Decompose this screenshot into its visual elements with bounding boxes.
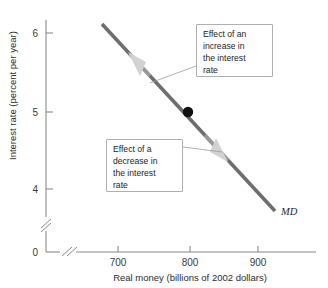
decrease-callout-line-3: the interest [113,168,156,178]
md-curve-label: MD [280,206,298,217]
x-tick-label-700: 700 [110,257,127,268]
y-axis-break-mark [41,223,51,232]
y-tick-label-6: 6 [32,28,38,39]
increase-callout: Effect of an increase in the interest ra… [150,25,273,84]
y-axis-title: Interest rate (percent per year) [7,31,18,160]
x-axis: 700 800 900 Real money (billions of 2002… [46,246,316,283]
decrease-callout-line-4: rate [113,180,128,190]
decrease-callout-line-1: Effect of a [113,144,152,154]
x-axis-break-mark [62,247,72,256]
x-tick-label-900: 900 [250,257,267,268]
y-tick-label-5: 5 [32,107,38,118]
decrease-callout-line-2: decrease in [113,156,158,166]
increase-callout-line-2: increase in [203,41,245,51]
decrease-callout: Effect of a decrease in the interest rat… [107,140,223,192]
increase-callout-line-4: rate [203,65,218,75]
x-axis-break-mark [67,247,77,256]
equilibrium-point [183,107,193,117]
x-tick-label-800: 800 [182,257,199,268]
y-tick-label-4: 4 [32,184,38,195]
increase-callout-line-3: the interest [203,53,246,63]
x-axis-title: Real money (billions of 2002 dollars) [113,272,267,283]
y-axis: 6 5 4 0 Interest rate (percent per year) [7,20,53,258]
y-axis-break-mark [41,219,51,228]
origin-label: 0 [32,247,38,258]
money-demand-figure: 6 5 4 0 Interest rate (percent per year)… [0,0,328,288]
arrow-up-along-curve-icon [128,52,146,76]
increase-callout-line-1: Effect of an [203,29,247,39]
increase-callout-leader-line [150,66,196,83]
